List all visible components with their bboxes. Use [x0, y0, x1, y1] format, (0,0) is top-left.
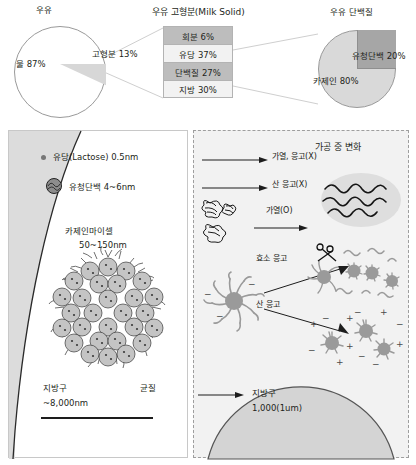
table-milk-solid-title: 우유 고형분(Milk Solid)	[152, 8, 245, 18]
svg-text:+: +	[346, 313, 354, 323]
svg-text:−: −	[216, 311, 224, 321]
svg-text:+: +	[310, 319, 318, 329]
legend-item-whey-protein: 유청단백 4~6nm	[69, 183, 135, 192]
svg-text:−: −	[372, 359, 380, 369]
pie-label-casein: 카제인 80%	[313, 77, 359, 86]
pie-chart-milk	[14, 26, 106, 118]
arrow-heat-coagulate-x	[202, 155, 270, 165]
legend-item-lactose: 유당(Lactose) 0.5nm	[53, 153, 138, 162]
enzyme-coagulation-result	[306, 243, 406, 305]
micelle-size-label: 50~150nm	[79, 241, 127, 250]
pie-slice-whey-protein	[357, 30, 396, 69]
table-row: 단백질 27%	[163, 62, 233, 80]
pie-protein-title: 우유 단백질	[330, 8, 373, 17]
svg-text:+: +	[380, 307, 388, 317]
scissors-icon	[317, 244, 336, 261]
micelle-name-label: 카제인마이셀	[65, 227, 113, 236]
svg-text:−: −	[248, 279, 256, 289]
svg-text:−: −	[396, 319, 404, 329]
pie-label-whey-protein: 유청단백 20%	[352, 52, 406, 61]
label-enzyme-coagulation: 효소 응고	[256, 255, 287, 264]
arrow-acid-coagulation	[264, 307, 352, 339]
denatured-whey-protein	[320, 167, 402, 233]
arrow-label-heat-coagulate-x: 가열, 응고(X)	[272, 153, 317, 162]
svg-text:−: −	[322, 313, 330, 323]
table-row: 유당 37%	[163, 44, 233, 62]
homogenize-label: 균질	[140, 384, 156, 393]
pie-label-water: 물 87%	[16, 60, 46, 69]
svg-text:−: −	[354, 307, 362, 317]
arrow-enzyme-coagulation	[264, 265, 352, 297]
fat-globule-size-label: ~8,000nm	[43, 399, 88, 408]
table-milk-solid: 회분 6% 유당 37% 단백질 27% 지방 30%	[163, 26, 233, 98]
svg-text:+: +	[336, 357, 344, 367]
lactose-dot-icon	[41, 155, 46, 160]
svg-text:−: −	[358, 351, 366, 361]
processing-changes-panel: 가공 중 변화 가열, 응고(X) 산 응고(X) 가열(O)	[193, 130, 409, 458]
acid-coagulation-result: +− +− +− −+ +− +−	[306, 307, 406, 369]
svg-text:+: +	[346, 341, 354, 351]
fat-globule-size-right: 1,000(1um)	[252, 404, 302, 413]
fat-globule-label-right: 지방구	[252, 389, 276, 398]
table-row: 회분 6%	[163, 26, 233, 44]
arrow-acid-coagulate-x	[202, 183, 270, 193]
table-row: 지방 30%	[163, 80, 233, 98]
arrow-label-heat-o: 가열(O)	[266, 207, 293, 216]
panel-right-title: 가공 중 변화	[315, 143, 361, 153]
svg-text:−: −	[204, 289, 212, 299]
svg-text:−: −	[308, 345, 316, 355]
label-acid-coagulation: 산 응고	[256, 301, 280, 310]
pie-milk-title: 우유	[36, 6, 52, 15]
arrow-label-acid-coagulate-x: 산 응고(X)	[272, 181, 307, 190]
arrow-to-fat-globule	[198, 389, 250, 401]
milk-structure-panel: 유당(Lactose) 0.5nm 유청단백 4~6nm 카제인마이셀 50~1…	[8, 130, 188, 458]
casein-micelle-cluster	[45, 253, 171, 379]
svg-text:+: +	[396, 339, 404, 349]
pie-chart-protein	[318, 30, 396, 108]
pie-label-milk-solid: 고형분 13%	[92, 50, 138, 59]
fat-globule-label: 지방구	[43, 384, 67, 393]
arrow-heat-o	[254, 223, 310, 233]
native-whey-protein-icons	[200, 193, 252, 239]
scale-bar	[41, 417, 153, 419]
milk-composition-diagram: 우유 물 87% 고형분 13% 우유 고형분(Milk Solid) 회분 6…	[0, 0, 416, 122]
whey-globule-icon	[45, 177, 63, 195]
fat-globule-arc	[9, 131, 189, 459]
